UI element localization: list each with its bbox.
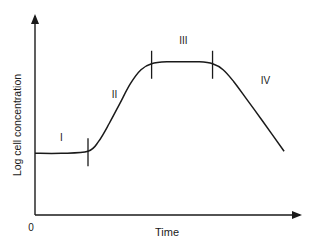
phase-label-lag: I: [60, 132, 63, 143]
y-axis-label: Log cell concentration: [11, 74, 23, 176]
origin-label: 0: [28, 222, 34, 233]
phase-label-stationary: III: [179, 35, 187, 46]
phase-label-exponential: II: [112, 89, 118, 100]
phase-label-death: IV: [261, 75, 271, 86]
growth-curve-line: [35, 62, 284, 154]
growth-curve-chart: 0 Time Log cell concentration IIIIIIIV: [0, 0, 318, 248]
plot-area: IIIIIIIV: [35, 35, 284, 166]
axes: [35, 16, 300, 215]
x-axis-label: Time: [155, 226, 179, 238]
